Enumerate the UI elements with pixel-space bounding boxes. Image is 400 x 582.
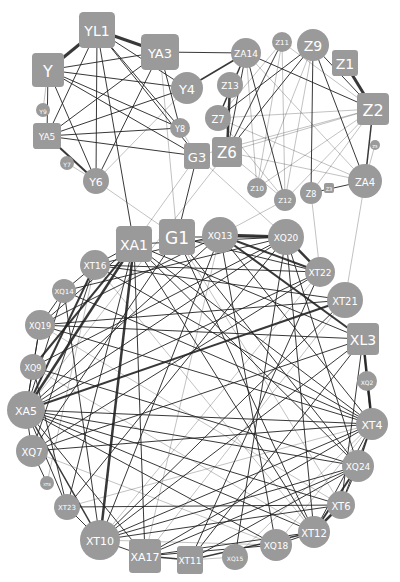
node-label: Y (42, 62, 53, 81)
edge-Z9-Z12 (285, 45, 313, 200)
node-label: XL3 (350, 332, 376, 348)
node-xq15[interactable]: XQ15 (222, 544, 248, 570)
node-label: Y7 (62, 161, 71, 168)
node-z6[interactable]: Z6 (212, 137, 242, 167)
node-label: YA5 (38, 132, 56, 142)
node-label: Z1 (336, 56, 355, 72)
edge-Z6-ZA4 (227, 152, 365, 181)
node-label: Z6 (217, 144, 237, 162)
node-label: XT22 (309, 268, 332, 278)
node-za4[interactable]: ZA4 (348, 164, 382, 198)
node-xq2[interactable]: XQ2 (357, 371, 377, 391)
node-xq9[interactable]: XQ9 (20, 354, 46, 380)
node-z9[interactable]: Z9 (297, 29, 329, 61)
node-z10[interactable]: Z10 (247, 178, 267, 198)
node-label: XQ7 (21, 447, 42, 458)
node-label: G3 (188, 150, 206, 165)
node-xt11[interactable]: XT11 (177, 546, 203, 574)
node-xt16[interactable]: XT16 (80, 250, 110, 280)
node-ya5[interactable]: YA5 (33, 123, 61, 149)
node-y8[interactable]: Y8 (170, 118, 190, 138)
node-yl1[interactable]: YL1 (79, 12, 115, 48)
node-xt21[interactable]: XT21 (327, 282, 363, 318)
node-label: YL1 (83, 23, 109, 39)
node-xt4[interactable]: XT4 (356, 408, 388, 440)
node-label: Z2 (362, 101, 383, 120)
node-label: XQ14 (54, 288, 74, 296)
node-z8[interactable]: Z8 (300, 182, 322, 204)
edge-XT16-XT4 (95, 265, 372, 424)
node-xq13[interactable]: XQ13 (202, 217, 238, 253)
node-label: Z3 (326, 186, 333, 192)
node-xt6[interactable]: XT6 (327, 491, 355, 519)
node-xt8[interactable]: XT8 (40, 476, 54, 490)
node-label: XA17 (130, 551, 159, 564)
node-label: Y6 (88, 176, 103, 189)
node-label: XQ20 (274, 233, 299, 243)
node-label: XQ13 (208, 231, 233, 241)
edge-XL3-XT11 (190, 339, 363, 560)
node-xt23[interactable]: XT23 (54, 494, 80, 520)
node-ya3[interactable]: YA3 (141, 34, 179, 70)
node-z1[interactable]: Z1 (332, 50, 358, 76)
node-label: Z7 (211, 114, 224, 125)
node-xl3[interactable]: XL3 (347, 323, 379, 355)
node-xa1[interactable]: XA1 (116, 226, 152, 262)
node-xa17[interactable]: XA17 (129, 539, 161, 573)
node-label: Y4 (178, 82, 195, 97)
edge-ZA4-XT21 (345, 181, 365, 300)
node-xq14[interactable]: XQ14 (52, 279, 76, 303)
edges-layer (26, 30, 375, 560)
node-label: Z12 (278, 197, 292, 205)
node-z11[interactable]: Z11 (272, 32, 292, 52)
node-label: G1 (165, 228, 189, 248)
node-label: XA1 (120, 237, 148, 253)
edge-XQ7-XT4 (32, 424, 372, 451)
node-label: XT11 (179, 556, 202, 566)
node-xq20[interactable]: XQ20 (268, 219, 304, 255)
node-z2[interactable]: Z2 (357, 93, 389, 125)
node-label: XT4 (361, 419, 382, 432)
edge-XT23-XT6 (67, 505, 341, 507)
node-label: XT6 (331, 501, 350, 512)
node-xt22[interactable]: XT22 (305, 257, 335, 287)
node-xq24[interactable]: XQ24 (342, 450, 374, 482)
node-z7[interactable]: Z7 (205, 105, 231, 131)
node-y7[interactable]: Y7 (60, 156, 74, 170)
node-label: XQ19 (29, 322, 51, 331)
node-label: XQ15 (227, 555, 244, 562)
node-z13[interactable]: Z13 (217, 72, 243, 98)
node-label: Y8 (174, 125, 185, 134)
edge-YA5-G3 (47, 136, 197, 156)
edge-XL3-XQ7 (32, 339, 363, 451)
node-g3[interactable]: G3 (184, 143, 210, 169)
node-label: YA3 (147, 46, 172, 61)
edge-XA5-XQ18 (26, 410, 276, 545)
node-za14[interactable]: ZA14 (231, 38, 261, 68)
node-xq19[interactable]: XQ19 (25, 310, 55, 340)
node-label: Z13 (221, 81, 239, 91)
node-y9[interactable]: Y9 (36, 103, 50, 117)
node-y[interactable]: Y (32, 53, 64, 87)
node-y4[interactable]: Y4 (171, 72, 203, 104)
node-z5[interactable]: Z5 (370, 140, 380, 150)
node-xq7[interactable]: XQ7 (16, 435, 48, 467)
node-z12[interactable]: Z12 (274, 189, 296, 211)
node-label: ZA4 (355, 177, 375, 188)
node-g1[interactable]: G1 (159, 219, 195, 255)
edge-Z11-Z12 (282, 42, 285, 200)
node-xq18[interactable]: XQ18 (260, 529, 292, 561)
node-label: Z9 (304, 38, 323, 54)
node-label: XT16 (84, 261, 107, 271)
node-label: XT8 (43, 482, 51, 487)
node-xt10[interactable]: XT10 (80, 520, 120, 560)
node-y6[interactable]: Y6 (83, 168, 109, 194)
network-graph: YL1YYA3Y4Y9YA5Y8Y7G3Y6ZA14Z11Z9Z1Z13Z2Z7… (0, 0, 400, 582)
node-label: XT10 (86, 535, 114, 548)
node-xt12[interactable]: XT12 (298, 516, 330, 548)
node-label: XQ9 (25, 364, 42, 373)
node-label: Y9 (38, 108, 47, 115)
node-z3[interactable]: Z3 (324, 183, 334, 193)
node-label: Z11 (275, 39, 289, 47)
node-xa5[interactable]: XA5 (7, 391, 45, 429)
